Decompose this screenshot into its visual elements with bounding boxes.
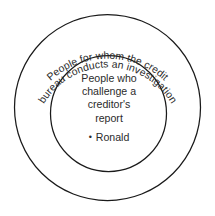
inner-set-label-line-3: creditor's	[50, 98, 168, 111]
inner-set-label-line-2: challenge a	[50, 85, 168, 98]
inner-set-label-line-1: People who	[50, 72, 168, 85]
inner-set-label-line-4: report	[50, 112, 168, 125]
inner-set-label: People who challenge a creditor's report	[50, 72, 168, 125]
member-name: Ronald	[96, 131, 130, 143]
bullet-icon: •	[89, 131, 92, 144]
inner-set-member-list: •Ronald	[50, 131, 168, 144]
venn-diagram: People for whom the credit bureau conduc…	[0, 0, 215, 216]
list-item: •Ronald	[89, 131, 130, 144]
